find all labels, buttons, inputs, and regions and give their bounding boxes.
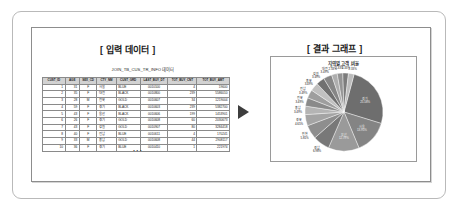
table-cell: F	[79, 111, 97, 118]
table-row: 328M전북GOLD0010607341219004	[43, 97, 230, 104]
table-caption: JOIN_TB_CUS_TR_INFO 데이터	[88, 66, 198, 72]
table-cell: 1453901	[197, 111, 230, 118]
table-cell: 28	[65, 97, 79, 104]
table-cell: 0010800	[140, 91, 168, 98]
table-row: 543F울산BLACK00106061991453901	[43, 111, 230, 118]
table-cell: F	[79, 118, 97, 125]
table-cell: 199	[168, 111, 197, 118]
table-cell: M	[79, 97, 97, 104]
table-cell: 31	[65, 84, 79, 91]
table-cell: 0010606	[140, 111, 168, 118]
table-cell: 0010611	[140, 131, 168, 138]
pie-chart: 경기25.58%서울13.95%부산12.79%경남6.98%인천5.81%경북…	[271, 65, 418, 161]
table-cell: 경기	[97, 118, 116, 125]
table-cell: 40	[65, 131, 79, 138]
input-data-table: CUST_ID AGE SEX_CD CTY_NM CUST_GRD LAST_…	[42, 77, 230, 152]
table-cell: 경기	[97, 104, 116, 111]
table-cell: 33	[65, 138, 79, 145]
table-cell: F	[79, 124, 97, 131]
table-row: 131F서울BLUE0010100419600	[43, 84, 230, 91]
table-cell: 1219004	[197, 97, 230, 104]
table-cell: 239	[168, 91, 197, 98]
result-graph-section-title: [ 결과 그래프 ]	[307, 42, 363, 55]
table-row: 626F경기GOLD0010608602030673	[43, 118, 230, 125]
table-cell: 5586010	[197, 91, 230, 98]
table-cell: 0010907	[140, 124, 168, 131]
pie-slice-label: 충남3.49%	[294, 105, 303, 113]
table-cell: 80	[168, 124, 197, 131]
table-cell: 60	[168, 118, 197, 125]
table-cell: 26	[65, 118, 79, 125]
table-cell: 10	[43, 144, 66, 151]
table-cell: M	[79, 138, 97, 145]
table-cell: 5	[43, 111, 66, 118]
table-cell: 충남	[97, 138, 116, 145]
table-cell: 강원	[97, 124, 116, 131]
table-cell: 170241	[197, 131, 230, 138]
table-cell: 44	[168, 138, 197, 145]
table-cell: 0010607	[140, 97, 168, 104]
table-cell: 221974	[197, 144, 230, 151]
table-cell: 4	[43, 104, 66, 111]
table-cell: F	[79, 91, 97, 98]
table-cell: F	[79, 131, 97, 138]
table-cell: 7	[43, 124, 66, 131]
table-cell: F	[79, 104, 97, 111]
pie-slice-label: 전북3.49%	[295, 95, 304, 103]
table-cell: GOLD	[116, 124, 140, 131]
table-cell: 9	[43, 138, 66, 145]
table-row: 235F대전BLACK00108002395586010	[43, 91, 230, 98]
table-cell: 36	[65, 144, 79, 151]
chart-container: 지역별 고객 비율 경기25.58%서울13.95%부산12.79%경남6.98…	[270, 56, 417, 162]
pie-slice-label: 제주2.33%	[349, 65, 358, 70]
table-cell: F	[79, 144, 97, 151]
table-cell: GOLD	[116, 97, 140, 104]
table-cell: BLACK	[116, 91, 140, 98]
table-cell: 1	[168, 144, 197, 151]
table-cell: 239	[168, 104, 197, 111]
table-cell: 3	[43, 97, 66, 104]
table-cell: 울산	[97, 111, 116, 118]
table-cell: BLUE	[116, 84, 140, 91]
table-cell: GOLD	[116, 118, 140, 125]
table-row: 459F경기BLACK00106032395382700	[43, 104, 230, 111]
table-cell: 5382700	[197, 104, 230, 111]
pie-slice-label: 강원3.49%	[312, 71, 321, 79]
table-cell: 1	[43, 84, 66, 91]
input-data-section-title: [ 입력 데이터 ]	[100, 43, 156, 56]
table-row: 743F강원GOLD0010907803284418	[43, 124, 230, 131]
table-cell: 0010100	[140, 84, 168, 91]
table-row: 840F전남BLUE00106114170241	[43, 131, 230, 138]
table-cell: 34	[168, 97, 197, 104]
table-cell: 전남	[97, 131, 116, 138]
table-cell: 35	[65, 91, 79, 98]
pie-slice-label: 경북4.65%	[295, 117, 304, 125]
table-cell: 2908117	[197, 138, 230, 145]
table-cell: 4	[168, 84, 197, 91]
table-cell: BLACK	[116, 111, 140, 118]
table-cell: 4	[168, 131, 197, 138]
table-cell: 43	[65, 124, 79, 131]
pie-slice-label: 전남3.49%	[299, 86, 308, 94]
table-cell: 2	[43, 91, 66, 98]
flow-arrow-icon	[238, 105, 249, 119]
pie-slice-label: 인천5.81%	[300, 131, 309, 139]
table-cell: 서울	[97, 84, 116, 91]
table-cell: 0010608	[140, 118, 168, 125]
table-cell: 0010603	[140, 104, 168, 111]
table-cell: 43	[65, 111, 79, 118]
table-row: 933M충남GOLD0010608442908117	[43, 138, 230, 145]
table-cell: 전북	[97, 97, 116, 104]
table-cell: 8	[43, 131, 66, 138]
pie-slice-label: 경남6.98%	[313, 144, 322, 152]
table-cell: 3284418	[197, 124, 230, 131]
table-cell: 6	[43, 118, 66, 125]
table-cell: BLUE	[116, 131, 140, 138]
table-cell: F	[79, 84, 97, 91]
table-cell: 대전	[97, 91, 116, 98]
table-cell: BLACK	[116, 104, 140, 111]
table-cell: 0010608	[140, 138, 168, 145]
table-truncation-ellipsis: ···	[108, 149, 168, 153]
table-cell: 2030673	[197, 118, 230, 125]
table-cell: 19600	[197, 84, 230, 91]
